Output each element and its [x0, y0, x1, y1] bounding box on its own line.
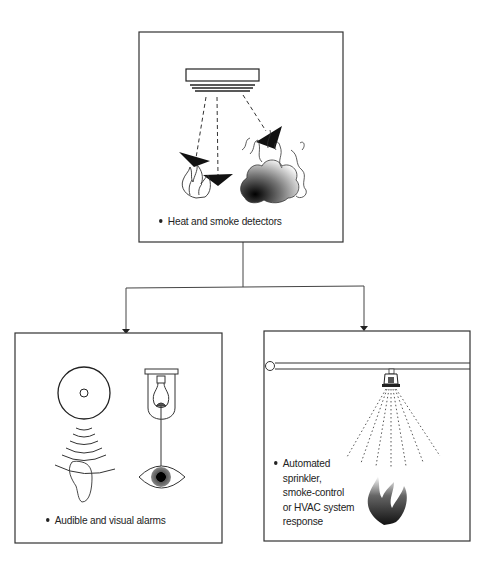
- arrow-down-icon: [360, 326, 368, 331]
- connectors: [126, 242, 364, 329]
- detectors-label: Heat and smoke detectors: [159, 214, 282, 229]
- alarms-label-text: Audible and visual alarms: [55, 514, 166, 526]
- response-label-line: response: [274, 514, 354, 529]
- bullet-icon: [274, 461, 278, 465]
- response-label: Automated sprinkler, smoke-control or HV…: [274, 456, 354, 529]
- response-label-line: smoke-control: [274, 485, 354, 500]
- response-label-line: Automated: [283, 457, 330, 469]
- alarms-box: [15, 333, 222, 543]
- response-label-line: sprinkler,: [274, 471, 354, 486]
- bullet-icon: [159, 219, 163, 223]
- response-label-line: or HVAC system: [274, 500, 354, 515]
- diagram-canvas: [0, 0, 492, 562]
- bullet-icon: [46, 518, 50, 522]
- smoke-detector-icon: [186, 69, 259, 91]
- alarms-label: Audible and visual alarms: [46, 513, 166, 528]
- detectors-label-text: Heat and smoke detectors: [168, 215, 282, 227]
- detectors-box: [139, 32, 343, 242]
